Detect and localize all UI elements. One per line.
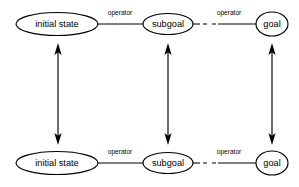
- node-subgoal-top[interactable]: subgoal: [143, 14, 193, 35]
- vertical-connectors: [54, 43, 275, 145]
- node-initial-state-bottom[interactable]: initial state: [16, 152, 98, 175]
- node-goal-bottom[interactable]: goal: [256, 151, 288, 175]
- bottom-edge-subgoal-goal: operator: [193, 148, 256, 163]
- edge-label-operator-1: operator: [108, 9, 133, 17]
- node-initial-state-top[interactable]: initial state: [16, 13, 98, 36]
- node-label-initial-state: initial state: [35, 19, 78, 29]
- node-goal-top[interactable]: goal: [256, 12, 288, 36]
- node-label-subgoal: subgoal: [152, 158, 184, 168]
- connector-initial-state: [54, 43, 61, 145]
- top-row: operator operator initial state subgoal: [16, 9, 288, 36]
- edge-label-operator-3: operator: [108, 148, 133, 156]
- connector-subgoal: [164, 43, 171, 145]
- top-edge-subgoal-goal: operator: [193, 9, 256, 24]
- node-label-subgoal: subgoal: [152, 19, 184, 29]
- node-label-initial-state: initial state: [35, 158, 78, 168]
- diagram-svg: operator operator initial state subgoal: [0, 0, 299, 187]
- bottom-edge-initial-subgoal: operator: [98, 148, 143, 163]
- node-label-goal: goal: [263, 158, 280, 168]
- bottom-row: operator operator initial state subgoal: [16, 148, 288, 175]
- node-label-goal: goal: [263, 19, 280, 29]
- edge-label-operator-4: operator: [217, 148, 242, 156]
- connector-goal: [268, 43, 275, 145]
- top-edge-initial-subgoal: operator: [98, 9, 143, 24]
- figure-canvas: operator operator initial state subgoal: [0, 0, 299, 187]
- node-subgoal-bottom[interactable]: subgoal: [143, 153, 193, 174]
- edge-label-operator-2: operator: [217, 9, 242, 17]
